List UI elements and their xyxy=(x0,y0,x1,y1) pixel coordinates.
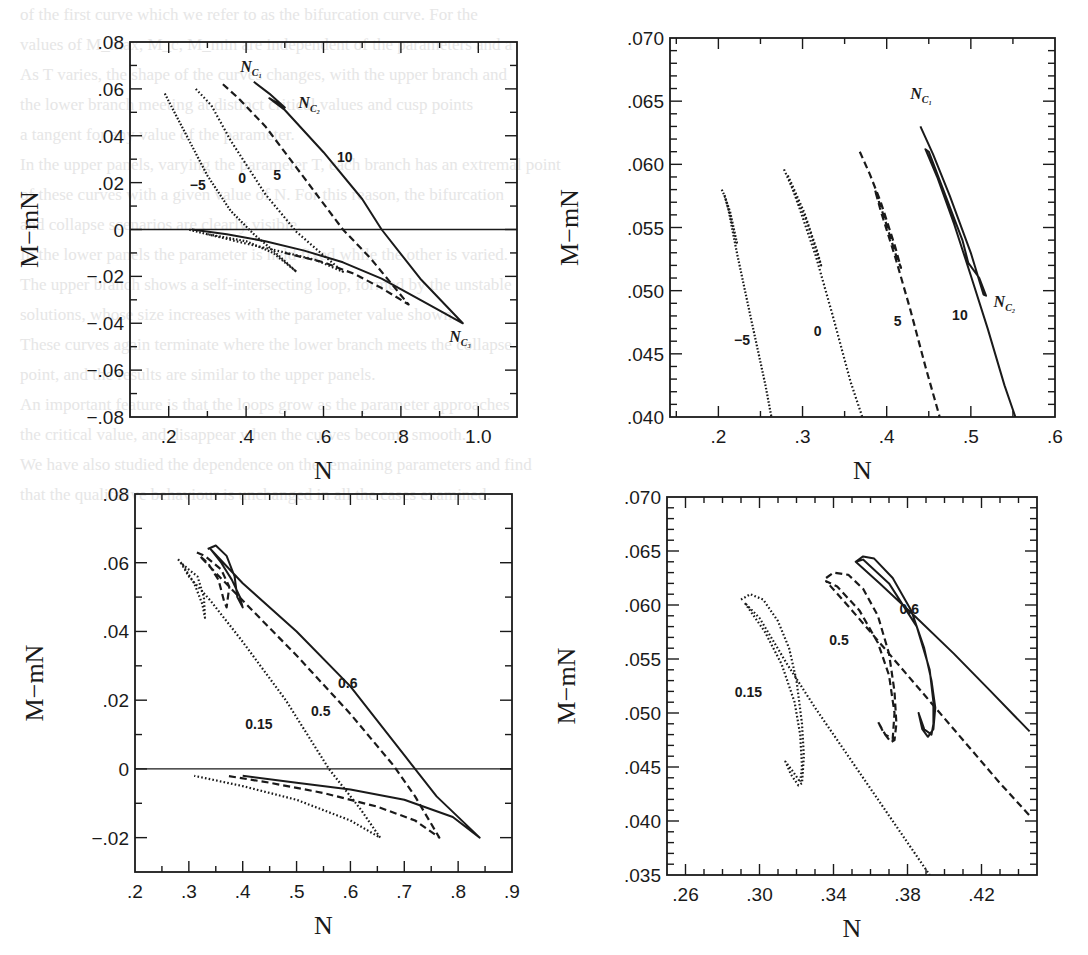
critical-point-label: NC₁ xyxy=(909,85,932,105)
y-tick-label: .050 xyxy=(627,281,664,302)
x-tick-label: .2 xyxy=(127,881,143,902)
y-tick-label: .045 xyxy=(624,757,661,778)
x-tick-label: .6 xyxy=(316,426,332,447)
critical-point-label: NC₂ xyxy=(993,293,1016,313)
y-tick-label: .040 xyxy=(624,811,661,832)
curve-10 xyxy=(192,82,463,323)
y-tick-label: .060 xyxy=(624,595,661,616)
y-tick-label: −.02 xyxy=(86,266,124,287)
curve-label: 0.6 xyxy=(900,601,920,617)
curve-label: 0.6 xyxy=(338,675,358,691)
curve-label: 10 xyxy=(337,149,353,165)
x-tick-label: .8 xyxy=(450,881,466,902)
curve-label: 0.15 xyxy=(735,684,762,700)
x-axis-title: N xyxy=(853,456,872,485)
curve-label: 0.5 xyxy=(311,703,331,719)
x-tick-label: .34 xyxy=(820,884,847,905)
curve-label: 5 xyxy=(894,313,902,329)
y-tick-label: .04 xyxy=(103,621,130,642)
y-tick-label: −.02 xyxy=(91,828,129,849)
x-tick-label: .6 xyxy=(1047,426,1063,447)
y-tick-label: .060 xyxy=(627,154,664,175)
x-tick-label: .7 xyxy=(396,881,412,902)
y-axis-title: M−mN xyxy=(555,189,584,266)
x-tick-label: .30 xyxy=(746,884,772,905)
curve-label: −5 xyxy=(734,332,750,348)
critical-point-label: NC₃ xyxy=(448,328,471,348)
y-tick-label: .06 xyxy=(103,553,129,574)
y-tick-label: .045 xyxy=(627,344,664,365)
curve-0_6 xyxy=(208,546,480,838)
x-tick-label: .5 xyxy=(963,426,979,447)
x-tick-label: .5 xyxy=(289,881,305,902)
curve-5 xyxy=(860,152,940,417)
curve-0_5 xyxy=(197,552,439,837)
y-tick-label: .065 xyxy=(624,541,661,562)
curve-0_5 xyxy=(826,573,1030,816)
panel-bottom-right: .26.30.34.38.42.070.065.060.055.050.045.… xyxy=(552,487,1037,943)
curve-0_15 xyxy=(178,559,380,837)
panel-bottom-left: .2.3.4.5.6.7.8.9.08.06.04.020−.02NM−mN0.… xyxy=(20,484,520,940)
y-tick-label: −.08 xyxy=(86,407,124,428)
x-tick-label: .2 xyxy=(710,426,726,447)
curve-label: −5 xyxy=(190,177,206,193)
y-axis-title: M−mN xyxy=(20,644,49,721)
curve-5 xyxy=(223,84,409,304)
y-tick-label: 0 xyxy=(113,220,124,241)
y-tick-label: 0 xyxy=(118,759,129,780)
y-tick-label: .055 xyxy=(627,218,664,239)
x-tick-label: 1.0 xyxy=(465,426,491,447)
curve-minus5 xyxy=(722,190,772,417)
critical-point-label: NC₁ xyxy=(239,58,262,78)
y-tick-label: −.04 xyxy=(86,313,124,334)
x-tick-label: .42 xyxy=(968,884,994,905)
x-tick-label: .6 xyxy=(342,881,358,902)
curve-label: 0.5 xyxy=(829,632,849,648)
x-tick-label: .4 xyxy=(879,426,895,447)
y-tick-label: .070 xyxy=(627,28,664,49)
y-tick-label: .08 xyxy=(98,32,124,53)
y-tick-label: .04 xyxy=(98,126,125,147)
x-axis-title: N xyxy=(843,914,862,943)
x-tick-label: .4 xyxy=(238,426,254,447)
y-tick-label: .035 xyxy=(624,865,661,886)
curve-label: 0 xyxy=(814,323,822,339)
y-tick-label: −.06 xyxy=(86,360,124,381)
critical-point-label: NC₂ xyxy=(297,94,320,114)
x-tick-label: .38 xyxy=(894,884,920,905)
y-tick-label: .040 xyxy=(627,407,664,428)
curve-label: 5 xyxy=(273,167,281,183)
y-tick-label: .055 xyxy=(624,649,661,670)
plot-frame xyxy=(667,497,1037,875)
x-axis-title: N xyxy=(314,911,333,940)
x-tick-label: .4 xyxy=(235,881,251,902)
y-axis-title: M−mN xyxy=(15,191,44,268)
y-tick-label: .02 xyxy=(98,173,124,194)
figure-four-panel-plot: .2.4.6.81.0.08.06.04.020−.02−.04−.06−.08… xyxy=(0,0,1088,955)
curve-label: 10 xyxy=(952,307,968,323)
curve-label: 0.15 xyxy=(245,716,272,732)
x-tick-label: .3 xyxy=(795,426,811,447)
y-tick-label: .06 xyxy=(98,79,124,100)
x-axis-title: N xyxy=(314,456,333,485)
y-axis-title: M−mN xyxy=(552,647,581,724)
curve-label: 0 xyxy=(238,170,246,186)
y-tick-label: .070 xyxy=(624,487,661,508)
panel-top-left: .2.4.6.81.0.08.06.04.020−.02−.04−.06−.08… xyxy=(15,32,517,485)
curve-0 xyxy=(196,89,343,272)
y-tick-label: .050 xyxy=(624,703,661,724)
x-tick-label: .3 xyxy=(181,881,197,902)
x-tick-label: .8 xyxy=(393,426,409,447)
panel-top-right: .2.3.4.5.6.070.065.060.055.050.045.040NM… xyxy=(555,28,1063,485)
x-tick-label: .26 xyxy=(672,884,698,905)
curve-0 xyxy=(784,169,862,417)
y-tick-label: .065 xyxy=(627,91,664,112)
y-tick-label: .02 xyxy=(103,690,129,711)
curve-10 xyxy=(920,126,1015,417)
x-tick-label: .9 xyxy=(504,881,520,902)
y-tick-label: .08 xyxy=(103,484,129,505)
x-tick-label: .2 xyxy=(161,426,177,447)
